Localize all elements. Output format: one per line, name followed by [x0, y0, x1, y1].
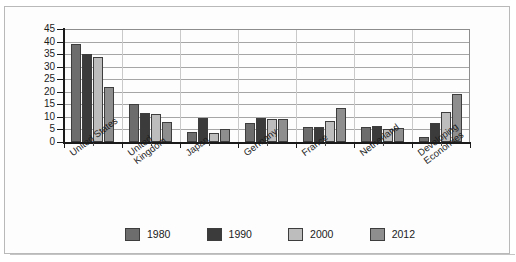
legend-entry-1980[interactable]: 1980: [125, 228, 170, 241]
y-axis-tick: [57, 129, 64, 130]
legend-label: 1990: [229, 228, 252, 240]
bar-group: [303, 29, 347, 142]
x-axis-tick: [180, 143, 181, 148]
y-axis-tick-label: 45: [21, 24, 55, 34]
legend-swatch-1980: [125, 228, 140, 241]
x-axis-tick: [122, 143, 123, 148]
y-axis-tick: [57, 104, 64, 105]
x-axis-tick: [296, 143, 297, 148]
bar-group: [129, 29, 173, 142]
y-axis-tick: [57, 117, 64, 118]
y-axis-tick: [57, 142, 64, 143]
legend-label: 1980: [147, 228, 170, 240]
y-axis-line: [63, 28, 65, 143]
group-separator: [238, 29, 239, 142]
y-axis-tick-label: 5: [21, 124, 55, 134]
y-axis-tick-label: 35: [21, 49, 55, 59]
y-axis-tick-label: 40: [21, 37, 55, 47]
legend-label: 2012: [392, 228, 415, 240]
y-axis-tick-label: 0: [21, 137, 55, 147]
bar-1990-0[interactable]: [82, 54, 92, 142]
legend-divider: [10, 254, 515, 255]
y-axis-tick-label: 15: [21, 99, 55, 109]
y-axis-tick-label: 20: [21, 87, 55, 97]
chart-legend: 1980199020002012: [125, 226, 415, 242]
y-axis-tick-label: 25: [21, 74, 55, 84]
x-axis-tick: [354, 143, 355, 148]
y-axis-tick-label: 30: [21, 62, 55, 72]
x-axis-tick: [238, 143, 239, 148]
group-separator: [180, 29, 181, 142]
y-axis-tick: [57, 42, 64, 43]
legend-swatch-1990: [207, 228, 222, 241]
legend-label: 2000: [310, 228, 333, 240]
y-axis-tick: [57, 79, 64, 80]
bar-2012-2[interactable]: [220, 129, 230, 142]
x-axis-tick: [412, 143, 413, 148]
bar-group: [245, 29, 289, 142]
x-axis-tick: [470, 143, 471, 148]
bar-2012-4[interactable]: [336, 108, 346, 142]
x-axis-tick: [64, 143, 65, 148]
bar-1980-1[interactable]: [129, 104, 139, 142]
y-axis-tick: [57, 92, 64, 93]
legend-entry-2012[interactable]: 2012: [370, 228, 415, 241]
group-separator: [296, 29, 297, 142]
y-axis-tick: [57, 67, 64, 68]
group-separator: [354, 29, 355, 142]
group-separator: [122, 29, 123, 142]
bar-1980-0[interactable]: [71, 44, 81, 142]
group-separator: [412, 29, 413, 142]
legend-entry-2000[interactable]: 2000: [288, 228, 333, 241]
bar-group: [361, 29, 405, 142]
y-axis-tick-label: 10: [21, 112, 55, 122]
bar-2012-3[interactable]: [278, 119, 288, 142]
plot-area: [64, 29, 470, 142]
y-axis-tick: [57, 29, 64, 30]
legend-swatch-2000: [288, 228, 303, 241]
legend-entry-1990[interactable]: 1990: [207, 228, 252, 241]
bar-group: [187, 29, 231, 142]
bar-2000-2[interactable]: [209, 133, 219, 142]
chart-frame: 1980199020002012 454035302520151050Unite…: [4, 6, 510, 254]
y-axis-tick: [57, 54, 64, 55]
legend-swatch-2012: [370, 228, 385, 241]
